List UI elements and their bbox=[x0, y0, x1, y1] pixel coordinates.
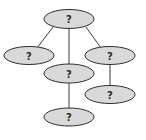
node-label: ? bbox=[66, 14, 72, 25]
node-left: ? bbox=[4, 47, 54, 65]
node-label: ? bbox=[66, 112, 72, 123]
edge-root-right bbox=[86, 27, 101, 48]
node-middle-child: ? bbox=[44, 108, 94, 126]
node-right-child: ? bbox=[85, 86, 135, 104]
edge-root-left bbox=[37, 27, 53, 48]
node-label: ? bbox=[26, 51, 32, 62]
node-right: ? bbox=[85, 47, 135, 65]
node-label: ? bbox=[107, 90, 113, 101]
node-label: ? bbox=[107, 51, 113, 62]
node-label: ? bbox=[66, 69, 72, 80]
node-middle: ? bbox=[44, 64, 94, 83]
node-root: ? bbox=[44, 10, 94, 29]
tree-diagram: ? ? ? ? ? ? bbox=[0, 0, 146, 140]
